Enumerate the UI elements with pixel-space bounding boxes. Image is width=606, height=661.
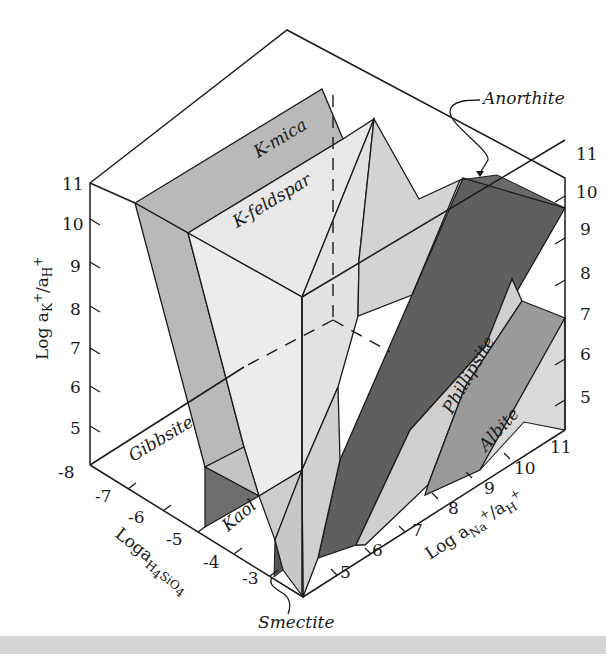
svg-text:5: 5 <box>70 418 81 438</box>
anorthite-label: Anorthite <box>481 88 565 108</box>
svg-text:10: 10 <box>576 182 598 202</box>
bottom-divider-bar <box>0 636 606 654</box>
phase-diagram: 11 10 9 8 7 6 5 Log aK+/aH+ 11 10 9 8 7 … <box>0 0 606 661</box>
svg-text:7: 7 <box>412 520 423 540</box>
vertical-axis-label: Log aK+/aH+ <box>31 257 55 360</box>
svg-text:6: 6 <box>580 344 591 364</box>
svg-text:9: 9 <box>70 256 81 276</box>
svg-text:9: 9 <box>484 478 495 498</box>
svg-text:5: 5 <box>580 387 591 407</box>
svg-text:10: 10 <box>514 458 536 478</box>
svg-text:6: 6 <box>70 377 81 397</box>
svg-text:9: 9 <box>580 219 591 239</box>
svg-text:-4: -4 <box>203 552 220 572</box>
svg-text:-8: -8 <box>58 462 75 482</box>
svg-text:-7: -7 <box>95 486 112 506</box>
svg-text:8: 8 <box>70 299 81 319</box>
svg-text:8: 8 <box>448 498 459 518</box>
right-axis-tick-labels: 11 10 9 8 7 6 5 <box>576 144 598 407</box>
svg-text:-5: -5 <box>166 529 183 549</box>
svg-text:6: 6 <box>372 540 383 560</box>
svg-text:11: 11 <box>550 437 572 457</box>
svg-text:-6: -6 <box>128 507 145 527</box>
smectite-label: Smectite <box>258 612 335 632</box>
svg-text:-3: -3 <box>242 568 259 588</box>
left-axis-tick-labels: 11 10 9 8 7 6 5 <box>62 174 84 438</box>
svg-text:5: 5 <box>340 562 351 582</box>
svg-text:11: 11 <box>576 144 598 164</box>
svg-text:10: 10 <box>62 214 84 234</box>
svg-text:7: 7 <box>580 304 591 324</box>
svg-text:8: 8 <box>580 263 591 283</box>
svg-text:11: 11 <box>62 174 84 194</box>
svg-text:7: 7 <box>70 338 81 358</box>
